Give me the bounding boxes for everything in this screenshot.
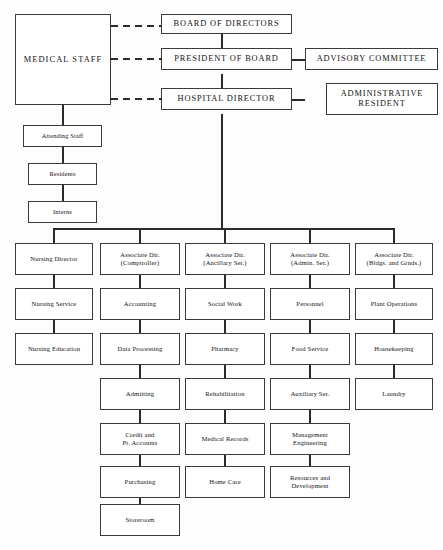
- box-label: Pharmacy: [209, 345, 241, 353]
- box-label: MEDICAL STAFF: [22, 55, 105, 65]
- box-nursing-director[interactable]: Nursing Director: [15, 243, 93, 275]
- connector-management-engineering-to-resources-and-development: [309, 455, 311, 466]
- box-label: BOARD OF DIRECTORS: [172, 19, 282, 29]
- box-label: Food Service: [290, 345, 331, 353]
- connector-associate-dir-comptroller-to-accounting: [139, 275, 141, 288]
- connector-bus-drop-col3: [224, 228, 226, 243]
- box-associate-dir-comptroller[interactable]: Associate Dir. (Comptroller): [100, 243, 180, 275]
- connector-medical-to-attending: [62, 105, 64, 125]
- box-label: PRESIDENT OF BOARD: [172, 54, 281, 64]
- box-administrative-resident[interactable]: ADMINISTRATIVE RESIDENT: [326, 83, 438, 115]
- box-nursing-education[interactable]: Nursing Education: [15, 333, 93, 365]
- box-resources-and-development[interactable]: Resources and Development: [270, 466, 350, 498]
- box-data-processing[interactable]: Data Processing: [100, 333, 180, 365]
- org-chart: MEDICAL STAFF BOARD OF DIRECTORS PRESIDE…: [0, 0, 443, 550]
- box-label: Associate Dir. (Admin. Ser.): [288, 251, 331, 267]
- box-rehabilitation[interactable]: Rehabilitation: [185, 378, 265, 410]
- box-president-of-board[interactable]: PRESIDENT OF BOARD: [161, 48, 292, 70]
- connector-associate-dir-admin-ser-to-personnel: [309, 275, 311, 288]
- box-hospital-director[interactable]: HOSPITAL DIRECTOR: [161, 88, 292, 110]
- box-label: Nursing Director: [28, 255, 79, 263]
- connector-president-to-director: [221, 74, 223, 88]
- box-label: Rehabilitation: [203, 390, 246, 398]
- box-residents[interactable]: Residents: [28, 163, 97, 185]
- connector-food-service-to-auxiliary-ser: [309, 365, 311, 378]
- box-medical-records[interactable]: Medical Records: [185, 423, 265, 455]
- connector-bus-drop-col5: [393, 228, 395, 243]
- box-label: Auxiliary Ser.: [288, 390, 331, 398]
- box-admitting[interactable]: Admitting: [100, 378, 180, 410]
- box-label: Storeroom: [123, 516, 156, 524]
- box-pharmacy[interactable]: Pharmacy: [185, 333, 265, 365]
- box-label: Medical Records: [199, 435, 250, 443]
- box-home-care[interactable]: Home Care: [185, 466, 265, 498]
- box-label: Home Care: [207, 478, 243, 486]
- box-credit-and-pt-accounts[interactable]: Credit and Pt. Accounts: [100, 423, 180, 455]
- box-associate-dir-bldgs-and-grnds[interactable]: Associate Dir. (Bldgs. and Grnds.): [355, 243, 433, 275]
- connector-bus-drop-col2: [139, 228, 141, 243]
- connector-accounting-to-data-processing: [139, 320, 141, 333]
- connector-president-to-advisory: [292, 59, 305, 61]
- box-laundry[interactable]: Laundry: [355, 378, 433, 410]
- connector-medical-records-to-home-care: [224, 455, 226, 466]
- box-label: Personnel: [294, 300, 325, 308]
- box-storeroom[interactable]: Storeroom: [100, 504, 180, 536]
- box-label: Nursing Education: [26, 345, 82, 353]
- box-attending-staff[interactable]: Attending Staff: [23, 125, 102, 147]
- box-label: Social Work: [206, 300, 244, 308]
- connector-pharmacy-to-rehabilitation: [224, 365, 226, 378]
- box-label: Housekeeping: [372, 345, 416, 353]
- box-label: Associate Dir. (Comptroller): [118, 251, 161, 267]
- box-interns[interactable]: Interns: [28, 201, 97, 223]
- connector-rehabilitation-to-medical-records: [224, 410, 226, 423]
- box-associate-dir-admin-ser[interactable]: Associate Dir. (Admin. Ser.): [270, 243, 350, 275]
- box-food-service[interactable]: Food Service: [270, 333, 350, 365]
- box-advisory-committee[interactable]: ADVISORY COMMITTEE: [305, 48, 438, 70]
- box-board-of-directors[interactable]: BOARD OF DIRECTORS: [161, 14, 292, 34]
- connector-auxiliary-ser-to-management-engineering: [309, 410, 311, 423]
- box-medical-staff[interactable]: MEDICAL STAFF: [15, 14, 111, 105]
- box-plant-operations[interactable]: Plant Operations: [355, 288, 433, 320]
- connector-personnel-to-food-service: [309, 320, 311, 333]
- box-auxiliary-ser[interactable]: Auxiliary Ser.: [270, 378, 350, 410]
- connector-director-to-admin-resident: [292, 99, 305, 101]
- box-label: Attending Staff: [40, 132, 86, 140]
- box-management-engineering[interactable]: Management Engineering: [270, 423, 350, 455]
- connector-associate-dir-ancillary-ser-to-social-work: [224, 275, 226, 288]
- connector-board-to-president: [221, 34, 223, 48]
- box-housekeeping[interactable]: Housekeeping: [355, 333, 433, 365]
- box-label: Interns: [51, 208, 74, 216]
- connector-plant-operations-to-housekeeping: [393, 320, 395, 333]
- connector-data-processing-to-admitting: [139, 365, 141, 378]
- box-label: Purchasing: [123, 478, 158, 486]
- connector-associate-dir-bldgs-and-grnds-to-plant-operations: [393, 275, 395, 288]
- connector-credit-and-pt-accounts-to-purchasing: [139, 455, 141, 466]
- box-label: ADMINISTRATIVE RESIDENT: [339, 89, 426, 109]
- box-accounting[interactable]: Accounting: [100, 288, 180, 320]
- connector-dashed-medical-to-board: [111, 25, 161, 27]
- connector-bus-drop-col4: [309, 228, 311, 243]
- box-label: ADVISORY COMMITTEE: [315, 54, 429, 64]
- box-label: Associate Dir. (Ancillary Ser.): [201, 251, 248, 267]
- connector-nursing-director-to-nursing-service: [53, 275, 55, 288]
- box-label: Data Processing: [116, 345, 165, 353]
- box-personnel[interactable]: Personnel: [270, 288, 350, 320]
- box-label: Residents: [47, 170, 77, 178]
- box-label: Management Engineering: [290, 431, 330, 447]
- box-label: Credit and Pt. Accounts: [120, 431, 159, 447]
- box-purchasing[interactable]: Purchasing: [100, 466, 180, 498]
- box-label: Nursing Service: [30, 300, 79, 308]
- connector-dashed-medical-to-president: [111, 58, 161, 60]
- box-nursing-service[interactable]: Nursing Service: [15, 288, 93, 320]
- box-label: Resources and Development: [288, 474, 332, 490]
- connector-dashed-medical-to-director: [111, 98, 161, 100]
- connector-bus-drop-col1: [53, 228, 55, 243]
- connector-admitting-to-credit-and-pt-accounts: [139, 410, 141, 423]
- box-label: Accounting: [122, 300, 158, 308]
- box-label: Admitting: [124, 390, 156, 398]
- connector-nursing-service-to-nursing-education: [53, 320, 55, 333]
- box-associate-dir-ancillary-ser[interactable]: Associate Dir. (Ancillary Ser.): [185, 243, 265, 275]
- connector-attending-to-residents: [62, 147, 64, 163]
- box-label: HOSPITAL DIRECTOR: [176, 94, 278, 104]
- box-social-work[interactable]: Social Work: [185, 288, 265, 320]
